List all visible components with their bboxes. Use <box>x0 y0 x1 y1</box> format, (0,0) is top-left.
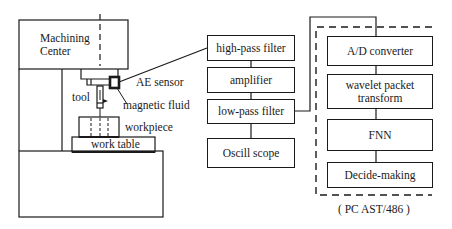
magnetic-fluid-label: magnetic fluid <box>123 99 190 112</box>
oscilloscope-block: Oscill scope <box>207 138 295 168</box>
decide-making-block: Decide-making <box>327 162 433 188</box>
machining-center-line2: Center <box>40 45 90 58</box>
wavelet-line1: wavelet packet <box>346 79 415 92</box>
machining-center-label: Machining Center <box>40 32 90 58</box>
ae-sensor-shape <box>110 77 119 88</box>
tool-label: tool <box>72 91 90 104</box>
diagram-canvas: Machining Center AE sensor tool magnetic… <box>0 0 452 229</box>
pc-caption: ( PC AST/486 ) <box>338 203 410 216</box>
machine-base <box>19 151 163 217</box>
amplifier-block: amplifier <box>207 67 295 93</box>
high-pass-filter-block: high-pass filter <box>207 35 295 61</box>
workpiece-label: workpiece <box>125 121 173 134</box>
machining-center-line1: Machining <box>40 32 90 45</box>
work-table-label: work table <box>91 138 140 151</box>
fnn-block: FNN <box>327 119 433 151</box>
low-pass-filter-block: low-pass filter <box>207 99 295 124</box>
wavelet-line2: transform <box>358 92 403 105</box>
workpiece-shape <box>79 117 119 137</box>
wavelet-packet-transform-block: wavelet packet transform <box>327 74 433 109</box>
ae-sensor-label: AE sensor <box>136 76 184 89</box>
tool-arrow-icon <box>103 99 108 103</box>
ad-converter-block: A/D converter <box>327 36 433 66</box>
